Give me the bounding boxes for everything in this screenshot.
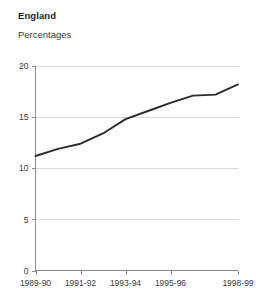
x-tick-label: 1993-94	[110, 278, 141, 288]
x-axis-ticks: 1989-901991-921993-941995-961998-99	[20, 271, 254, 288]
y-tick-label: 5	[24, 215, 29, 225]
x-tick-label: 1995-96	[155, 278, 186, 288]
chart-card: England Percentages 05101520 1989-901991…	[0, 0, 256, 301]
data-series-line	[36, 84, 239, 156]
x-tick-label: 1989-90	[20, 278, 51, 288]
y-tick-label: 20	[19, 61, 29, 71]
x-tick-label: 1998-99	[222, 278, 253, 288]
x-tick-label: 1991-92	[65, 278, 96, 288]
y-tick-label: 0	[24, 266, 29, 276]
y-tick-label: 15	[19, 112, 29, 122]
y-tick-label: 10	[19, 163, 29, 173]
gridlines	[36, 67, 240, 220]
plot-area: 05101520 1989-901991-921993-941995-96199…	[0, 0, 256, 301]
line-chart-svg: 05101520 1989-901991-921993-941995-96199…	[0, 0, 256, 301]
y-axis-ticks: 05101520	[19, 61, 35, 276]
